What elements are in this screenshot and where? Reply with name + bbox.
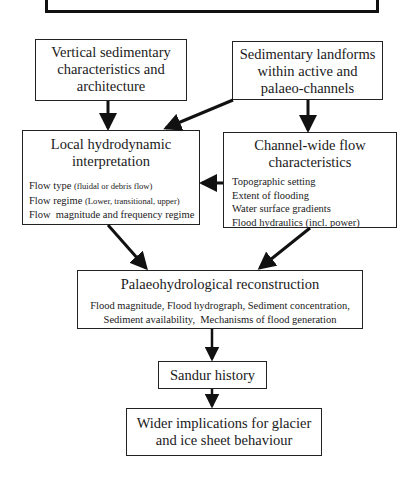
box-sandur-history: Sandur history [158, 361, 267, 389]
box-vertical-sedimentary: Vertical sedimentary characteristics and… [35, 39, 187, 101]
detail-line: Topographic setting [232, 175, 396, 189]
box-title-line: Vertical sedimentary [36, 44, 186, 61]
box-title-line: Local hydrodynamic [23, 136, 199, 153]
detail-paren: (Lower, transitional, upper) [85, 196, 180, 206]
box-wider-implications: Wider implications for glacier and ice s… [126, 408, 322, 456]
box-title-line: palaeo-channels [233, 80, 382, 97]
detail-line: Flow regime (Lower, transitional, upper) [29, 194, 199, 209]
box-title-line: Palaeohydrological reconstruction [78, 276, 362, 293]
detail-main: Flow regime [29, 195, 85, 206]
box-details: Flood magnitude, Flood hydrograph, Sedim… [78, 299, 362, 326]
detail-line: Flood hydraulics (incl. power) [232, 216, 396, 230]
arrow-channel-to-palaeo [260, 228, 310, 268]
box-details: Flow type (fluidal or debris flow) Flow … [23, 179, 199, 223]
detail-line: Extent of flooding [232, 189, 396, 203]
box-local-hydrodynamic: Local hydrodynamic interpretation Flow t… [22, 130, 200, 225]
box-title-line: Channel-wide flow [224, 137, 396, 154]
detail-line: Water surface gradients [232, 202, 396, 216]
arrow-landforms-to-local [166, 100, 233, 128]
detail-line: Flow magnitude and frequency regime [29, 208, 199, 223]
detail-line: Flow type (fluidal or debris flow) [29, 179, 199, 194]
box-sedimentary-landforms: Sedimentary landforms within active and … [232, 41, 383, 100]
detail-main: Flow type [29, 180, 74, 191]
box-title-line: characteristics and [36, 61, 186, 78]
detail-paren: (fluidal or debris flow) [74, 181, 153, 191]
top-cropped-box [45, 0, 379, 13]
box-title-line: architecture [36, 78, 186, 95]
box-title-line: within active and [233, 63, 382, 80]
box-title-line: characteristics [224, 154, 396, 171]
box-title-line: Wider implications for glacier [127, 415, 321, 432]
box-title-line: Sedimentary landforms [233, 46, 382, 63]
box-palaeohydrological: Palaeohydrological reconstruction Flood … [77, 270, 363, 329]
box-details: Topographic setting Extent of flooding W… [224, 175, 396, 229]
detail-main: Flow magnitude and frequency regime [29, 209, 194, 220]
box-title-line: interpretation [23, 153, 199, 170]
box-title-line: Sandur history [159, 367, 266, 384]
detail-line: Sediment availability, Mechanisms of flo… [78, 313, 362, 327]
arrow-local-to-palaeo [108, 225, 146, 268]
box-title-line: and ice sheet behaviour [127, 432, 321, 449]
box-channel-wide: Channel-wide flow characteristics Topogr… [223, 132, 397, 228]
detail-line: Flood magnitude, Flood hydrograph, Sedim… [78, 299, 362, 313]
